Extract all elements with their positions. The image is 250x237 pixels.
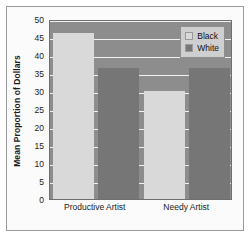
y-tick-label: 20 [35, 124, 44, 133]
chart-page: Mean Proportion of Dollars 0510152025303… [0, 0, 250, 237]
legend-item-black: Black [185, 30, 219, 42]
y-tick-label: 0 [39, 196, 44, 205]
bar-black-productive-artist [53, 33, 94, 199]
legend-item-white: White [185, 42, 219, 54]
x-tick-label: Needy Artist [163, 203, 209, 212]
y-tick-label: 15 [35, 142, 44, 151]
x-axis-tick-labels: Productive ArtistNeedy Artist [49, 203, 232, 217]
y-tick-label: 25 [35, 106, 44, 115]
x-tick-label: Productive Artist [64, 203, 125, 212]
legend-swatch-black-icon [185, 32, 193, 40]
y-axis-title: Mean Proportion of Dollars [10, 36, 24, 186]
y-axis-title-text: Mean Proportion of Dollars [12, 55, 22, 167]
legend-label-black: Black [197, 32, 218, 41]
bar-white-needy-artist [189, 68, 230, 199]
y-tick-label: 10 [35, 160, 44, 169]
bar-black-needy-artist [144, 91, 185, 199]
y-tick-label: 45 [35, 34, 44, 43]
legend: Black White [180, 26, 225, 58]
y-tick-label: 30 [35, 88, 44, 97]
gridline [50, 21, 231, 22]
bar-chart-figure: Mean Proportion of Dollars 0510152025303… [0, 0, 250, 237]
y-tick-label: 5 [39, 178, 44, 187]
bar-white-productive-artist [98, 68, 139, 199]
y-axis-tick-labels: 05101520253035404550 [26, 20, 46, 200]
y-tick-label: 40 [35, 52, 44, 61]
plot-area: Black White [49, 20, 232, 200]
y-tick-label: 50 [35, 16, 44, 25]
legend-swatch-white-icon [185, 44, 193, 52]
y-tick-label: 35 [35, 70, 44, 79]
legend-label-white: White [197, 44, 219, 53]
